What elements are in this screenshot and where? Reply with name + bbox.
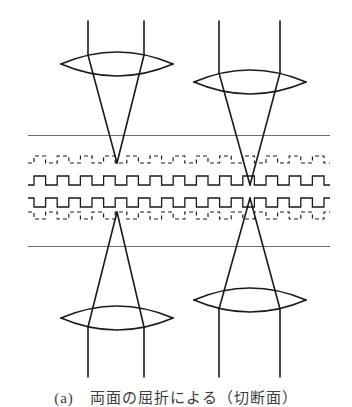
lens-bottom-left-lower-arc (61, 318, 173, 330)
ray-diverging-bottom-right-b (250, 198, 280, 309)
grating-row-1 (28, 156, 330, 163)
ray-diverging-bottom-left-a (88, 212, 117, 327)
optical-system-top-left (61, 21, 173, 163)
ray-converging-top-left-a (88, 55, 117, 163)
ray-converging-top-right-b (250, 73, 280, 185)
optical-system-top-right (194, 21, 306, 185)
lens-bottom-left-upper-arc (61, 306, 173, 318)
grating-row-4 (28, 212, 330, 219)
lens-bottom-right-lower-arc (194, 300, 306, 312)
grating-row-3 (28, 198, 330, 207)
grating-stack (28, 156, 330, 219)
figure-caption: (a) 両面の屈折による（切断面） (0, 386, 352, 407)
grating-row-2 (28, 176, 330, 185)
lens-top-left-upper-arc (61, 52, 173, 64)
lens-top-right-upper-arc (194, 70, 306, 82)
lens-top-left-lower-arc (61, 64, 173, 76)
optical-system-bottom-left (61, 212, 173, 377)
guide-lines (28, 136, 330, 247)
ray-converging-top-right-a (219, 73, 250, 185)
lens-bottom-right-upper-arc (194, 288, 306, 300)
lens-top-right-lower-arc (194, 82, 306, 94)
optical-system-bottom-right (194, 198, 306, 377)
ray-diverging-bottom-right-a (219, 198, 250, 309)
ray-converging-top-left-b (117, 55, 144, 163)
ray-diverging-bottom-left-b (117, 212, 144, 327)
